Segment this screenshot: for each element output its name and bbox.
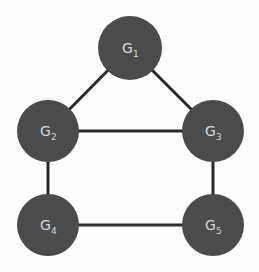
- node-subscript: 4: [51, 226, 57, 236]
- graph-diagram: G1G2G3G4G5: [0, 0, 259, 272]
- node-subscript: 1: [133, 49, 139, 59]
- node-label: G: [205, 123, 216, 139]
- node-subscript: 3: [216, 132, 222, 142]
- node-label: G: [40, 123, 51, 139]
- node-g1: G1: [98, 16, 162, 80]
- nodes: G1G2G3G4G5: [17, 16, 244, 256]
- node-label: G: [40, 217, 51, 233]
- node-g3: G3: [182, 100, 244, 162]
- node-label: G: [205, 217, 216, 233]
- node-subscript: 5: [216, 226, 222, 236]
- node-g4: G4: [17, 194, 79, 256]
- node-subscript: 2: [51, 132, 57, 142]
- node-g5: G5: [182, 194, 244, 256]
- graph-svg: G1G2G3G4G5: [0, 0, 259, 272]
- node-label: G: [122, 40, 133, 56]
- node-g2: G2: [17, 100, 79, 162]
